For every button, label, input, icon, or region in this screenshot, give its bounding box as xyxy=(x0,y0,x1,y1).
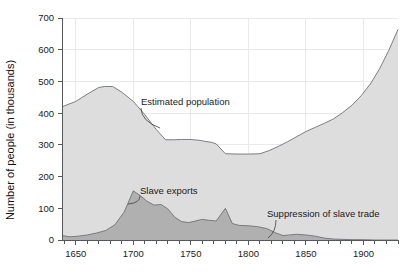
annotation-label-2: Slave exports xyxy=(140,185,198,196)
y-tick-label: 100 xyxy=(38,203,54,214)
x-tick-label: 1650 xyxy=(65,248,86,259)
chart-container: 0100200300400500600700165017001750180018… xyxy=(0,0,408,276)
y-tick-label: 300 xyxy=(38,139,54,150)
x-tick-label: 1700 xyxy=(123,248,144,259)
x-tick-label: 1750 xyxy=(180,248,201,259)
annotation-label-3: Suppression of slave trade xyxy=(267,208,379,219)
x-tick-label: 1800 xyxy=(238,248,259,259)
x-tick-label: 1850 xyxy=(295,248,316,259)
y-tick-label: 500 xyxy=(38,76,54,87)
y-tick-label: 0 xyxy=(49,234,54,245)
y-tick-label: 600 xyxy=(38,44,54,55)
y-axis-title: Number of people (in thousands) xyxy=(4,60,16,220)
y-tick-label: 200 xyxy=(38,171,54,182)
y-tick-label: 700 xyxy=(38,12,54,23)
area-chart: 0100200300400500600700165017001750180018… xyxy=(0,0,408,276)
y-tick-label: 400 xyxy=(38,108,54,119)
x-tick-label: 1900 xyxy=(353,248,374,259)
annotation-label-1: Estimated population xyxy=(141,96,230,107)
